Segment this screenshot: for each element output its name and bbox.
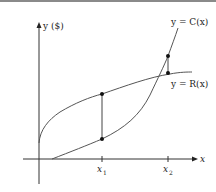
point-cost-x2	[166, 54, 170, 58]
cost-revenue-diagram: y ($) x y = C(x) y = R(x) x 1 x 2	[0, 0, 216, 192]
revenue-curve-label: y = R(x)	[170, 79, 208, 89]
point-revenue-x1	[100, 92, 104, 96]
x-axis	[23, 157, 198, 162]
tick-label-x1: x 1	[97, 164, 107, 176]
y-axis-arrow-icon	[37, 22, 42, 28]
svg-text:1: 1	[103, 169, 107, 176]
cost-curve	[52, 28, 178, 159]
revenue-curve	[39, 72, 192, 143]
point-cost-x1	[100, 137, 104, 141]
svg-text:2: 2	[169, 169, 173, 176]
svg-text:x: x	[163, 164, 168, 174]
point-revenue-x2	[166, 71, 170, 75]
y-axis	[37, 22, 42, 184]
tick-label-x2: x 2	[163, 164, 173, 176]
svg-text:x: x	[97, 164, 102, 174]
x-axis-label: x	[200, 154, 205, 164]
y-axis-label: y ($)	[42, 21, 64, 31]
cost-curve-label: y = C(x)	[170, 17, 208, 27]
x-axis-arrow-icon	[192, 157, 198, 162]
